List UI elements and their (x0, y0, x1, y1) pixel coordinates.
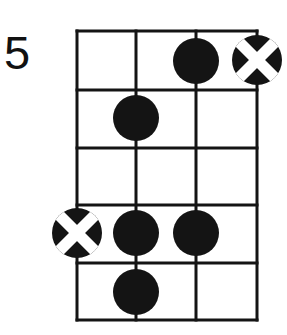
fret-lines-group (77, 31, 257, 320)
dot-string2-fret2[interactable] (113, 95, 159, 141)
chord-grid-svg (0, 0, 287, 335)
filled-dot-icon (113, 269, 159, 315)
dot-string3-fret1[interactable] (173, 38, 219, 84)
filled-dot-icon (113, 210, 159, 256)
dot-string2-fret4[interactable] (113, 210, 159, 256)
filled-dot-icon (173, 38, 219, 84)
cross-string4-fret1[interactable] (232, 35, 282, 85)
filled-dot-icon (113, 95, 159, 141)
string-lines-group (77, 31, 257, 320)
cross-string1-fret4[interactable] (52, 208, 102, 258)
dot-string3-fret4[interactable] (173, 210, 219, 256)
filled-dot-icon (173, 210, 219, 256)
dot-string2-fret5[interactable] (113, 269, 159, 315)
chord-markers-group (52, 35, 282, 315)
